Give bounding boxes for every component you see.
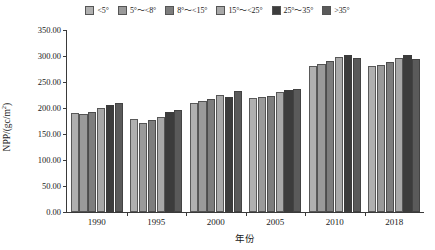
bar[interactable] (190, 103, 198, 212)
x-axis-tick-label: 2005 (266, 218, 284, 227)
x-axis-tick (127, 212, 128, 216)
chart-legend: <5°5°～<8°8°～<15°15°～<25°25°～35°>35° (0, 6, 435, 15)
legend-label: 5°～<8° (130, 6, 156, 15)
bar[interactable] (317, 64, 325, 212)
bar[interactable] (276, 92, 284, 212)
legend-swatch-icon (118, 6, 127, 15)
x-axis-tick-label: 1995 (147, 218, 165, 227)
y-axis-tick (63, 108, 67, 109)
legend-swatch-icon (216, 6, 225, 15)
bar[interactable] (234, 91, 242, 212)
y-axis-title-superscript: 2 (0, 106, 7, 109)
bar[interactable] (326, 61, 334, 212)
y-axis-title: NPP/(gc/m2) (0, 67, 12, 187)
legend-item[interactable]: 15°～<25° (216, 6, 262, 15)
bar[interactable] (258, 97, 266, 212)
legend-swatch-icon (272, 6, 281, 15)
x-axis-tick (365, 212, 366, 216)
y-axis-tick (63, 30, 67, 31)
y-axis-tick-label: 150.00 (38, 130, 61, 139)
legend-label: 15°～<25° (228, 6, 262, 15)
bar[interactable] (148, 120, 156, 212)
bar[interactable] (344, 55, 352, 212)
bar[interactable] (267, 96, 275, 212)
legend-label: 8°～<15° (177, 6, 207, 15)
y-axis-tick-label: 200.00 (38, 104, 61, 113)
y-axis-tick (63, 212, 67, 213)
bar-group (71, 30, 123, 212)
bar[interactable] (88, 112, 96, 212)
x-axis-title: 年份 (66, 231, 423, 245)
bar[interactable] (395, 58, 403, 212)
bar[interactable] (97, 108, 105, 212)
y-axis-tick-label: 50.00 (42, 182, 61, 191)
x-axis-tick-label: 2000 (207, 218, 225, 227)
legend-label: <5° (97, 6, 108, 15)
y-axis-tick-label: 350.00 (38, 26, 61, 35)
bar[interactable] (284, 90, 292, 212)
bar[interactable] (368, 66, 376, 212)
bar-group (130, 30, 182, 212)
legend-item[interactable]: 8°～<15° (165, 6, 207, 15)
bar-group (190, 30, 242, 212)
x-axis-tick-label: 2010 (326, 218, 344, 227)
legend-swatch-icon (322, 6, 331, 15)
bar[interactable] (174, 110, 182, 212)
bar[interactable] (165, 112, 173, 212)
legend-item[interactable]: 25°～35° (272, 6, 314, 15)
bar[interactable] (130, 119, 138, 212)
y-axis-tick-label: 100.00 (38, 156, 61, 165)
bar-group (368, 30, 420, 212)
y-axis-tick (63, 82, 67, 83)
bar[interactable] (377, 65, 385, 212)
y-axis-tick-label: 250.00 (38, 78, 61, 87)
bar-group (309, 30, 361, 212)
y-axis-tick (63, 56, 67, 57)
x-axis-tick (186, 212, 187, 216)
plot-area: 0.0050.00100.00150.00200.00250.00300.003… (66, 30, 424, 213)
bar[interactable] (106, 105, 114, 212)
bar[interactable] (403, 55, 411, 212)
bar[interactable] (79, 114, 87, 212)
bar-group (249, 30, 301, 212)
bar[interactable] (225, 97, 233, 212)
bar[interactable] (207, 99, 215, 212)
bar[interactable] (249, 98, 257, 212)
bar[interactable] (412, 59, 420, 212)
bar[interactable] (115, 103, 123, 212)
bar[interactable] (157, 117, 165, 212)
y-axis-tick (63, 186, 67, 187)
legend-swatch-icon (165, 6, 174, 15)
bar[interactable] (335, 57, 343, 212)
bar[interactable] (139, 123, 147, 212)
y-axis-tick (63, 160, 67, 161)
bar[interactable] (309, 66, 317, 212)
y-axis-tick-label: 300.00 (38, 52, 61, 61)
bar[interactable] (353, 58, 361, 212)
x-axis-tick (305, 212, 306, 216)
y-axis-tick-label: 0.00 (46, 208, 61, 217)
legend-swatch-icon (85, 6, 94, 15)
x-axis-tick (246, 212, 247, 216)
legend-label: >35° (334, 6, 349, 15)
bar[interactable] (386, 62, 394, 212)
bar[interactable] (216, 95, 224, 212)
legend-item[interactable]: 5°～<8° (118, 6, 156, 15)
y-axis-tick (63, 134, 67, 135)
bar[interactable] (293, 89, 301, 212)
legend-item[interactable]: >35° (322, 6, 349, 15)
bar[interactable] (71, 113, 79, 212)
bar[interactable] (198, 101, 206, 212)
npp-slope-bar-chart: <5°5°～<8°8°～<15°15°～<25°25°～35°>35° 0.00… (0, 0, 435, 250)
legend-item[interactable]: <5° (85, 6, 108, 15)
x-axis-tick-label: 1990 (88, 218, 106, 227)
x-axis-tick-label: 2018 (385, 218, 403, 227)
legend-label: 25°～35° (284, 6, 314, 15)
